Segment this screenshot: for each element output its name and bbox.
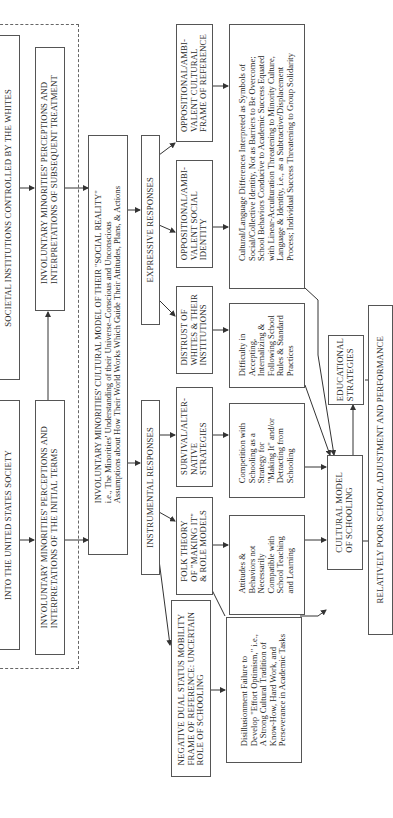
box-competition: Competition with Schooling as a Strategy… — [229, 403, 305, 498]
box-oppositional-identity: OPPOSITIONAL/AMBI- VALENT SOCIAL IDENTIT… — [176, 160, 213, 268]
difficulty-accepting-text: Difficulty in Accepting, Internalizing &… — [236, 312, 298, 379]
societal-institutions-text: SOCIETAL INSTITUTIONS CONTROLLED BY THE … — [2, 86, 16, 330]
competition-text: Competition with Schooling as a Strategy… — [236, 415, 298, 486]
box-into-us-society: INTO THE UNITED STATES SOCIETY — [0, 400, 20, 650]
box-attitudes-behaviors: Attitudes & Behaviors not Necessarily Co… — [229, 515, 305, 615]
cultural-language-differences-text: Cultural/Language Differences Interprete… — [236, 50, 298, 264]
distrust-text: DISTRUST OF WHITES & THEIR INSTITUTIONS — [178, 291, 211, 369]
box-survival: SURVIVAL/ALTER- NATIVE STRATEGIES — [176, 387, 213, 487]
box-societal-institutions: SOCIETAL INSTITUTIONS CONTROLLED BY THE … — [0, 35, 20, 380]
perceptions-initial-text: INVOLUNTARY MINORITIES' PERCEPTIONS AND … — [38, 423, 61, 631]
box-cultural-model-social-reality: INVOLUNTARY MINORITIES' CULTURAL MODEL O… — [88, 135, 128, 555]
educational-strategies-text: EDUCATIONAL STRATEGIES — [334, 335, 357, 404]
box-relatively-poor: RELATIVELY POOR SCHOOL ADJUSTMENT AND PE… — [368, 305, 393, 635]
box-distrust: DISTRUST OF WHITES & THEIR INSTITUTIONS — [176, 286, 213, 374]
box-folk-theory: FOLK THEORY OF "MAKING IT" & ROLE MODELS — [176, 497, 213, 595]
disillusionment-text: Disillusionment Failure to Develop "Effo… — [238, 631, 290, 749]
box-perceptions-subsequent: INVOLUNTARY MINORITIES' PERCEPTIONS AND … — [35, 47, 65, 311]
cultural-model-social-reality-text: INVOLUNTARY MINORITIES' CULTURAL MODEL O… — [92, 183, 125, 506]
box-negative-dual: NEGATIVE DUAL STATUS MOBILITY FRAME OF R… — [171, 600, 211, 777]
box-perceptions-initial: INVOLUNTARY MINORITIES' PERCEPTIONS AND … — [35, 400, 65, 655]
box-instrumental-responses: INSTRUMENTAL RESPONSES — [141, 400, 160, 575]
relatively-poor-text: RELATIVELY POOR SCHOOL ADJUSTMENT AND PE… — [374, 333, 388, 606]
folk-theory-text: FOLK THEORY OF "MAKING IT" & ROLE MODELS — [178, 507, 211, 585]
box-oppositional-frame: OPPOSITIONAL/AMBI- VALENT CULTURAL FRAME… — [176, 24, 213, 142]
box-disillusionment: Disillusionment Failure to Develop "Effo… — [226, 617, 302, 763]
perceptions-subsequent-text: INVOLUNTARY MINORITIES' PERCEPTIONS AND … — [38, 72, 61, 287]
box-cultural-language-differences: Cultural/Language Differences Interprete… — [229, 24, 305, 289]
cultural-model-schooling-text: CULTURAL MODEL OF SCHOOLING — [333, 469, 356, 556]
attitudes-behaviors-text: Attitudes & Behaviors not Necessarily Co… — [236, 533, 298, 597]
box-educational-strategies: EDUCATIONAL STRATEGIES — [328, 335, 364, 405]
box-difficulty-accepting: Difficulty in Accepting, Internalizing &… — [229, 303, 305, 388]
oppositional-frame-text: OPPOSITIONAL/AMBI- VALENT CULTURAL FRAME… — [178, 31, 211, 135]
oppositional-identity-text: OPPOSITIONAL/AMBI- VALENT SOCIAL IDENTIT… — [178, 164, 211, 263]
box-expressive-responses: EXPRESSIVE RESPONSES — [141, 135, 160, 325]
expressive-responses-text: EXPRESSIVE RESPONSES — [144, 174, 158, 285]
negative-dual-text: NEGATIVE DUAL STATUS MOBILITY FRAME OF R… — [175, 609, 208, 768]
instrumental-responses-text: INSTRUMENTAL RESPONSES — [144, 424, 158, 551]
into-us-society-text: INTO THE UNITED STATES SOCIETY — [2, 447, 16, 603]
survival-text: SURVIVAL/ALTER- NATIVE STRATEGIES — [178, 395, 211, 478]
box-cultural-model-schooling: CULTURAL MODEL OF SCHOOLING — [327, 455, 363, 570]
